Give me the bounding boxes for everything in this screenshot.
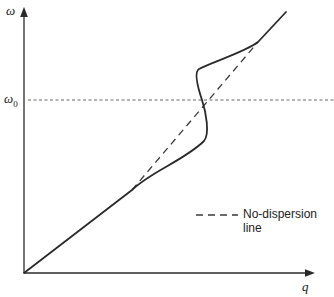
- omega0-symbol: ω: [4, 91, 13, 106]
- legend-label: No-dispersion line: [243, 207, 334, 235]
- diagram-canvas: [0, 0, 334, 297]
- omega0-label: ω0: [4, 91, 18, 109]
- y-axis-label: ω: [6, 3, 15, 19]
- no-dispersion-line: [132, 42, 258, 190]
- omega0-subscript: 0: [13, 99, 18, 109]
- x-axis-label: q: [302, 279, 309, 295]
